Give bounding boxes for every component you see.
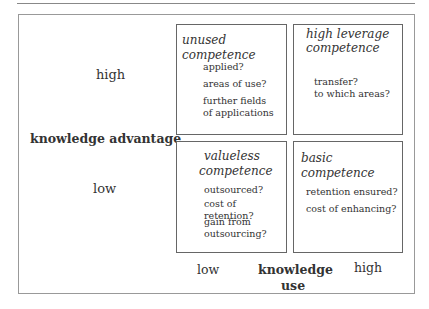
quadrant-title: high leverage [306,27,389,42]
quadrant-item: further fields [203,95,266,107]
quadrant-item: transfer? [314,76,358,88]
quadrant-item: outsourced? [204,184,263,196]
top-rule [17,3,415,4]
quadrant-valueless-competence: valueless competence outsourced? cost of… [176,141,287,253]
quadrant-title: competence [306,41,380,56]
quadrant-item: outsourcing? [204,228,267,240]
quadrant-item: to which areas? [314,88,390,100]
quadrant-item: gain from [204,216,251,228]
quadrant-title: unused competence [182,33,286,63]
quadrant-item: areas of use? [203,78,266,90]
quadrant-title: basic competence [301,151,402,181]
quadrant-item: retention ensured? [306,186,398,198]
quadrant-high-leverage-competence: high leverage competence transfer? to wh… [293,24,403,135]
quadrant-unused-competence: unused competence applied? areas of use?… [176,24,287,135]
x-axis-high-label: high [354,260,382,275]
y-axis-label: knowledge advantage [30,131,181,146]
y-axis-high-label: high [96,67,125,82]
quadrant-basic-competence: basic competence retention ensured? cost… [293,141,403,253]
y-axis-low-label: low [93,181,116,196]
quadrant-title: valueless [204,149,260,164]
x-axis-label-line2: use [281,278,305,293]
quadrant-item: cost of enhancing? [306,203,396,215]
quadrant-item: applied? [203,61,244,73]
x-axis-label: knowledge [258,262,333,277]
quadrant-item: of applications [203,107,274,119]
quadrant-title: competence [199,164,273,179]
x-axis-low-label: low [197,262,219,277]
